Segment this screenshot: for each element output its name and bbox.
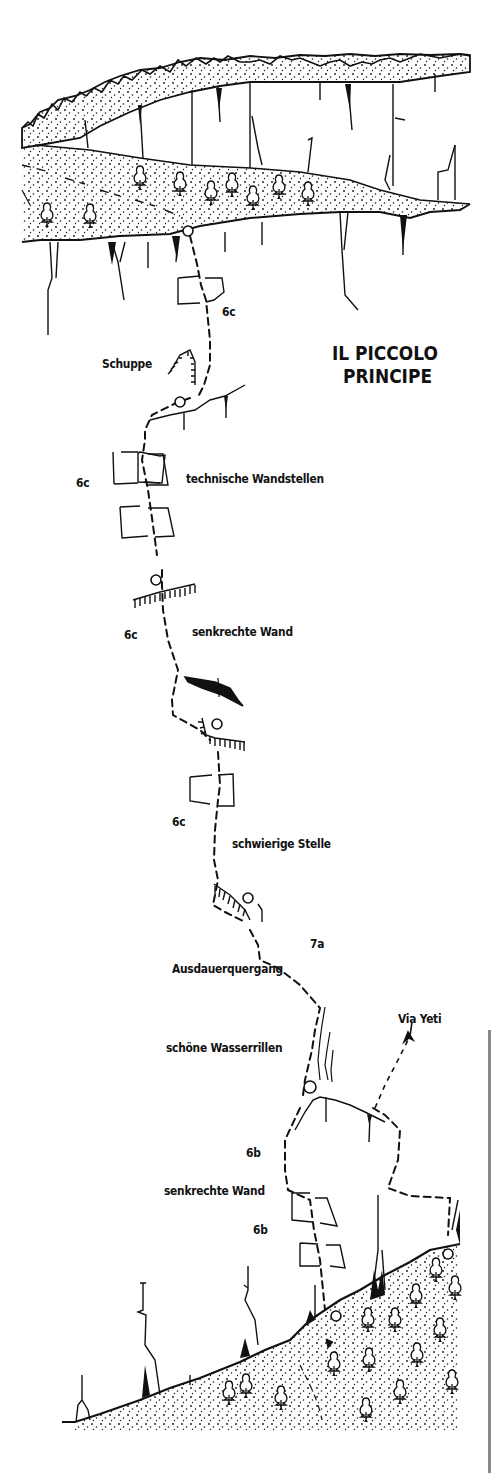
label-via-yeti: Via Yeti (398, 1011, 441, 1026)
grade-pitch-3: 6c (124, 627, 137, 642)
dihedral-box-icon (292, 1193, 337, 1226)
dihedral-box-icon (300, 1243, 345, 1268)
route-title: IL PICCOLO PRINCIPE (332, 342, 438, 388)
dihedral-box-icon (178, 276, 224, 304)
label-schuppe: Schuppe (102, 356, 152, 371)
belay-station-circle-icon (443, 1249, 453, 1259)
belay-station-circle-icon (175, 397, 185, 407)
belay-ledge-2 (150, 385, 245, 430)
flake-icon (168, 350, 195, 385)
black-roof-icon (185, 677, 243, 706)
belay-ledge-6 (295, 1097, 385, 1142)
label-senkrechte-wand-1: senkrechte Wand (192, 624, 293, 639)
belay-station-circle-icon (212, 719, 222, 729)
label-schoene-wasserrillen: schöne Wasserrillen (166, 1040, 282, 1055)
belay-station-circle-icon (151, 575, 161, 585)
belay-station-circle-icon (183, 226, 193, 236)
route-title-line-1: IL PICCOLO (332, 342, 438, 365)
label-schwierige-stelle: schwierige Stelle (232, 836, 331, 851)
roof-overhang-icon (214, 884, 262, 922)
upper-terrace (22, 54, 470, 148)
grade-pitch-6: 6b (246, 1145, 261, 1160)
grade-pitch-4: 6c (172, 814, 185, 829)
label-technische-wandstellen: technische Wandstellen (186, 471, 324, 486)
belay-station-circle-icon (304, 1081, 316, 1093)
roof-overhang-icon (133, 584, 195, 608)
route-line (142, 236, 450, 1310)
climbing-topo-drawing (0, 0, 491, 1473)
grade-pitch-1: 6c (222, 304, 235, 319)
dihedral-box-icon (113, 452, 168, 485)
water-grooves-icon (318, 1007, 333, 1082)
via-yeti-route-line (375, 1040, 408, 1108)
belay-station-circle-icon (331, 1311, 341, 1321)
grade-pitch-2: 6c (76, 475, 89, 490)
belay-station-circle-icon (243, 893, 253, 903)
label-ausdauerquergang: Ausdauerquergang (172, 961, 283, 976)
grade-pitch-5: 7a (310, 936, 324, 951)
label-senkrechte-wand-2: senkrechte Wand (164, 1183, 265, 1198)
dihedral-box-icon (120, 506, 174, 538)
grade-pitch-7: 6b (253, 1222, 268, 1237)
lower-forest-slope (62, 1244, 461, 1430)
dihedral-box-icon (190, 774, 234, 806)
route-title-line-2: PRINCIPE (332, 365, 438, 388)
